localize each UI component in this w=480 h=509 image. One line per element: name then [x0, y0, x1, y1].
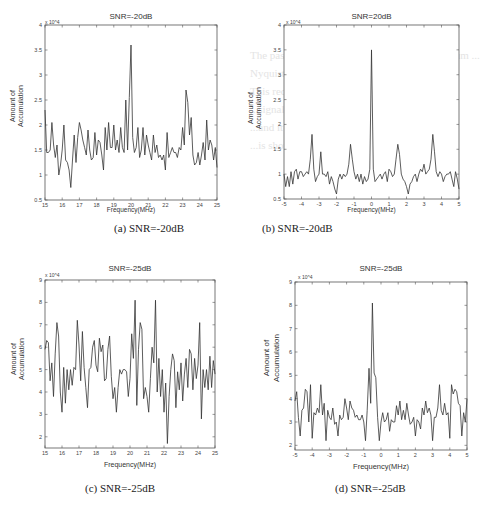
- y-tick-label: 7: [39, 322, 42, 328]
- x-tick-label: 22: [161, 450, 167, 456]
- x-tick-label: 19: [110, 450, 116, 456]
- y-tick-label: 2: [39, 434, 42, 440]
- x-tick-label: 5: [465, 452, 468, 458]
- x-tick-label: -3: [327, 452, 332, 458]
- x-tick-label: 17: [76, 450, 82, 456]
- y-tick-label: 3.5: [273, 47, 281, 53]
- y-tick-label: 2: [39, 122, 42, 128]
- x-axis-label: Frequency(MHz): [45, 461, 215, 468]
- y-tick-label: 8: [289, 302, 292, 308]
- y-tick-label: 1.5: [34, 147, 42, 153]
- x-tick-label: 21: [144, 450, 150, 456]
- figure-caption: (c) SNR=-25dB: [85, 482, 155, 494]
- x-tick-label: 1: [397, 452, 400, 458]
- y-tick-label: 6: [39, 344, 42, 350]
- y-tick-label: 3: [39, 411, 42, 417]
- y-tick-label: 3: [289, 419, 292, 425]
- x-tick-label: -2: [344, 452, 349, 458]
- y-tick-label: 8: [39, 299, 42, 305]
- x-tick-label: 24: [195, 450, 201, 456]
- x-axis-label: Frequency(MHz): [284, 206, 459, 213]
- x-axis-label: Frequency(MHz): [45, 206, 217, 213]
- x-tick-label: 20: [127, 450, 133, 456]
- y-tick-label: 9: [39, 277, 42, 283]
- chart-plot: 151617181920212223242523456789: [0, 250, 240, 509]
- x-tick-label: 2: [414, 452, 417, 458]
- x-tick-label: -5: [293, 452, 298, 458]
- y-tick-label: 2.5: [273, 97, 281, 103]
- figure-caption: (b) SNR=-20dB: [262, 222, 333, 234]
- y-tick-label: 5: [39, 367, 42, 373]
- y-tick-label: 2.5: [34, 97, 42, 103]
- chart-panel-c: SNR=-25dB x 10^4 Amount of Accumulation …: [0, 250, 240, 509]
- y-tick-label: 0.5: [273, 196, 281, 202]
- y-tick-label: 3: [39, 72, 42, 78]
- y-tick-label: 4: [278, 22, 281, 28]
- y-tick-label: 5: [289, 372, 292, 378]
- figure-caption: (a) SNR=-20dB: [114, 222, 184, 234]
- y-tick-label: 2: [278, 121, 281, 127]
- y-tick-label: 4: [39, 22, 42, 28]
- y-tick-label: 7: [289, 326, 292, 332]
- x-axis-label: Frequency(MHz): [295, 462, 467, 471]
- y-tick-label: 1: [39, 172, 42, 178]
- chart-panel-b: SNR=20dB x 10^4 Amount of Accumulation -…: [240, 0, 480, 250]
- x-tick-label: 15: [42, 450, 48, 456]
- y-tick-label: 0.5: [34, 197, 42, 203]
- x-tick-label: 16: [59, 450, 65, 456]
- y-tick-label: 2: [289, 442, 292, 448]
- y-tick-label: 4: [289, 396, 292, 402]
- y-tick-label: 6: [289, 349, 292, 355]
- x-tick-label: 18: [93, 450, 99, 456]
- x-tick-label: 23: [178, 450, 184, 456]
- x-tick-label: -1: [361, 452, 366, 458]
- plot-area: [45, 280, 215, 448]
- x-tick-label: -4: [310, 452, 315, 458]
- x-tick-label: 3: [431, 452, 434, 458]
- chart-panel-a: SNR=-20dB x 10^4 Amount of Accumulation …: [0, 0, 240, 250]
- x-tick-label: 4: [448, 452, 451, 458]
- y-tick-label: 4: [39, 389, 42, 395]
- chart-panel-d: SNR=-25dB x 10^4 Amount of Accumulation …: [240, 250, 480, 509]
- y-tick-label: 1.5: [273, 146, 281, 152]
- y-tick-label: 3.5: [34, 47, 42, 53]
- y-tick-label: 1: [278, 171, 281, 177]
- x-tick-label: 0: [379, 452, 382, 458]
- y-tick-label: 9: [289, 279, 292, 285]
- figure-caption: (d) SNR=-25dB: [335, 482, 406, 494]
- y-tick-label: 3: [278, 72, 281, 78]
- x-tick-label: 25: [212, 450, 218, 456]
